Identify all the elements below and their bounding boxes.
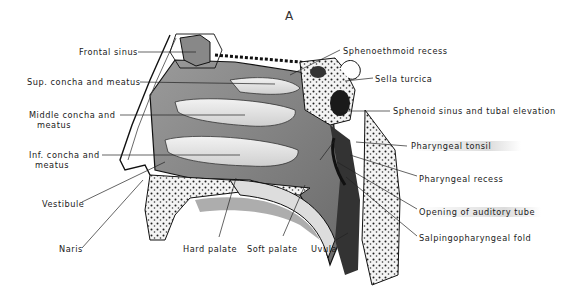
- label-sella-turcica: Sella turcica: [375, 74, 432, 84]
- label-sup-concha: Sup. concha and meatus: [27, 77, 141, 87]
- label-soft-palate: Soft palate: [247, 244, 298, 254]
- label-sphenoid-sinus: Sphenoid sinus and tubal elevation: [393, 106, 556, 116]
- label-vestibule: Vestibule: [42, 199, 84, 209]
- label-sphenoethmoid-recess: Sphenoethmoid recess: [343, 46, 448, 56]
- label-middle-concha-line1: Middle concha and: [29, 110, 115, 120]
- label-salpingopharyngeal-fold: Salpingopharyngeal fold: [419, 233, 531, 243]
- label-hard-palate: Hard palate: [183, 244, 237, 254]
- label-naris: Naris: [59, 244, 83, 254]
- label-pharyngeal-tonsil: Pharyngeal tonsil: [411, 141, 521, 151]
- label-inf-concha-line2: meatus: [35, 160, 69, 170]
- label-pharyngeal-recess: Pharyngeal recess: [419, 174, 503, 184]
- label-opening-auditory-tube: Opening of auditory tube: [419, 207, 541, 217]
- label-middle-concha-line2: meatus: [37, 120, 71, 130]
- label-uvula: Uvula: [311, 244, 337, 254]
- label-frontal-sinus: Frontal sinus: [79, 47, 138, 57]
- anatomy-figure: A: [0, 0, 564, 303]
- label-inf-concha-line1: Inf. concha and: [29, 150, 100, 160]
